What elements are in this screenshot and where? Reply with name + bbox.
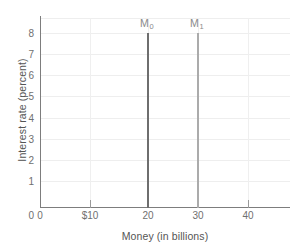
- x-axis-line: [40, 207, 290, 208]
- gridline-horizontal: [40, 75, 290, 76]
- gridline-horizontal: [40, 96, 290, 97]
- curve-label-m0-main: M: [140, 17, 149, 29]
- y-tick-label: 0: [18, 211, 34, 221]
- curve-label-m1-sub: 1: [199, 22, 203, 31]
- gridline-horizontal: [40, 139, 290, 140]
- curve-label-m1: M1: [190, 17, 203, 29]
- curve-label-m0-sub: 0: [149, 22, 153, 31]
- gridline-horizontal: [40, 18, 290, 19]
- x-tick-label: 20: [142, 211, 153, 221]
- gridline-horizontal: [40, 118, 290, 119]
- money-supply-chart: M0 M1 8 7 6 5 4 3 2 1 0 0 $10 20 30 40 I…: [0, 0, 296, 252]
- x-tick-label: 40: [242, 211, 253, 221]
- gridline-horizontal: [40, 33, 290, 34]
- x-axis-title: Money (in billions): [40, 230, 290, 242]
- curve-label-m0: M0: [140, 17, 153, 29]
- gridline-horizontal: [40, 181, 290, 182]
- gridline-horizontal: [40, 160, 290, 161]
- money-supply-line-m0: [147, 33, 149, 208]
- x-tick-label: $10: [82, 211, 99, 221]
- y-axis-title: Interest rate (percent): [16, 35, 28, 185]
- gridline-vertical: [90, 18, 91, 207]
- x-tick-label: 0: [37, 211, 43, 221]
- gridline-horizontal: [40, 54, 290, 55]
- money-supply-line-m1: [197, 33, 199, 208]
- x-tick-mark: [248, 200, 249, 208]
- y-axis-line: [40, 16, 41, 208]
- curve-label-m1-main: M: [190, 17, 199, 29]
- x-tick-mark: [90, 200, 91, 208]
- plot-area: [40, 18, 290, 207]
- x-tick-label: 30: [192, 211, 203, 221]
- gridline-vertical: [248, 18, 249, 207]
